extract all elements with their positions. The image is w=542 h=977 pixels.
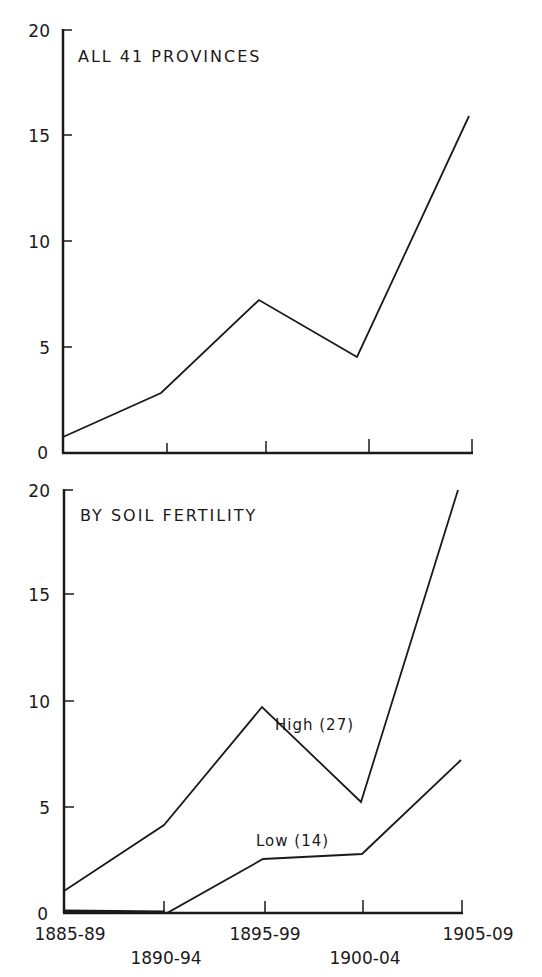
top-ytick-label: 15 <box>28 126 50 146</box>
series-high-label: High (27) <box>275 716 354 734</box>
top-panel-title: ALL 41 PROVINCES <box>78 47 261 66</box>
bottom-ytick-label: 15 <box>28 585 50 605</box>
bottom-ytick-label: 0 <box>37 904 48 924</box>
bottom-xtick-label: 1900-04 <box>329 948 400 968</box>
top-ytick-label: 20 <box>28 21 50 41</box>
top-ytick-label: 0 <box>37 443 48 463</box>
bottom-ytick-label: 20 <box>28 481 50 501</box>
bottom-ytick-label: 5 <box>39 798 50 818</box>
series-all-provinces-line <box>63 116 469 437</box>
bottom-panel: 20 15 10 5 0 1885-89 1890-94 1895-99 190… <box>28 481 513 968</box>
bottom-xtick-label: 1905-09 <box>442 924 513 944</box>
low-zero-segment <box>64 911 165 912</box>
top-ytick-label: 5 <box>39 338 50 358</box>
series-high-line <box>64 490 458 891</box>
bottom-xtick-label: 1890-94 <box>130 948 201 968</box>
bottom-panel-title: BY SOIL FERTILITY <box>80 506 257 525</box>
top-panel: 20 15 10 5 0 ALL 41 PROVINCES <box>28 21 473 463</box>
top-ytick-label: 10 <box>28 232 50 252</box>
bottom-ytick-label: 10 <box>28 692 50 712</box>
bottom-xtick-label: 1885-89 <box>34 924 105 944</box>
figure: 20 15 10 5 0 ALL 41 PROVINCES 20 15 10 5… <box>0 0 542 977</box>
bottom-xtick-label: 1895-99 <box>229 924 300 944</box>
series-low-label: Low (14) <box>256 832 329 850</box>
